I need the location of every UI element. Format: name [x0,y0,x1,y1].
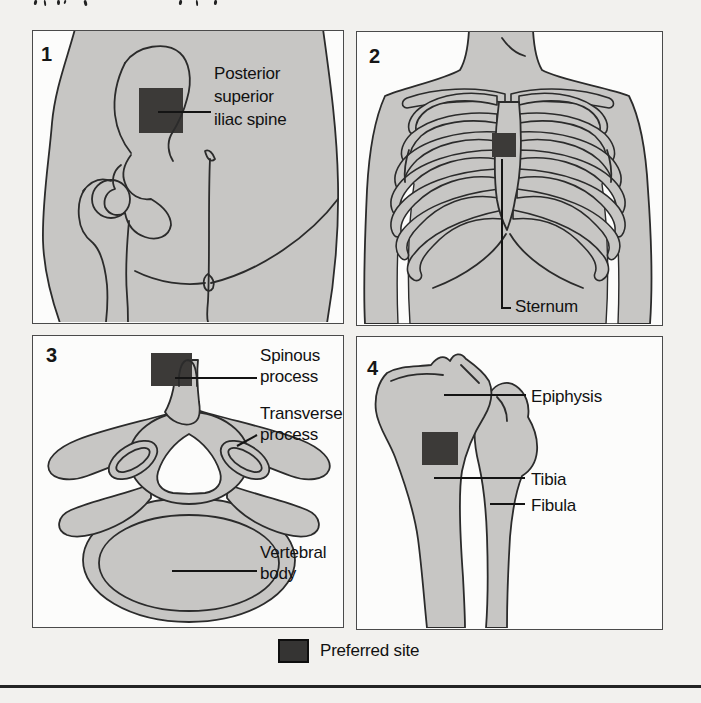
legend: Preferred site [278,639,419,663]
figure-bone-marrow-aspiration-sites: 1 Posterior superior iliac spine [0,0,701,703]
label-transverse-process: Transverse process [260,403,342,445]
label-sternum: Sternum [515,295,578,318]
panel-number: 4 [367,357,378,380]
label-tibia: Tibia [531,468,566,491]
tibia-fibula-drawing [357,337,661,628]
ribcage-drawing [357,32,661,324]
panel-tibia-fibula: 4 Epiphysis Tibia Fibula [356,336,663,630]
panel-number: 2 [369,45,380,68]
label-vertebral-body: Vertebral body [260,542,326,584]
bottom-rule [0,685,701,688]
panel-number: 1 [41,43,52,66]
pelvis-drawing [33,31,342,322]
legend-label: Preferred site [320,641,419,661]
preferred-site-marker [422,432,458,465]
label-epiphysis: Epiphysis [531,385,602,408]
body-silhouette [43,31,338,322]
panel-ribcage: 2 Sternum [356,31,663,326]
panel-vertebra: 3 Spinous process Transverse process Ver… [32,335,344,628]
panel-pelvis: 1 Posterior superior iliac spine [32,30,344,324]
preferred-site-marker [492,133,516,157]
label-spinous-process: Spinous process [260,345,320,387]
preferred-site-marker [151,353,192,386]
label-posterior-superior-iliac-spine: Posterior superior iliac spine [214,62,286,131]
fibula-bone [475,383,538,628]
panel-number: 3 [46,344,57,367]
preferred-site-swatch [278,639,309,663]
label-fibula: Fibula [531,494,576,517]
